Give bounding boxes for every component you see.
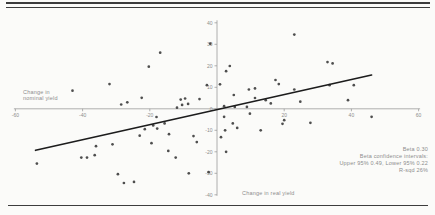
data-point [248, 88, 251, 91]
data-point [198, 98, 201, 101]
data-point [155, 116, 158, 119]
data-point [225, 150, 228, 153]
x-axis-title: Change in real yield [242, 190, 295, 196]
data-point [167, 150, 170, 153]
data-point [117, 173, 120, 176]
data-point [232, 94, 235, 97]
data-point [133, 181, 136, 184]
data-point [187, 172, 190, 175]
data-point [299, 100, 302, 103]
stats-rsqd: R-sqd 26% [339, 167, 428, 174]
data-point [207, 171, 210, 174]
data-point [159, 51, 162, 54]
data-point [86, 156, 89, 159]
data-point [352, 84, 355, 87]
data-point [120, 103, 123, 106]
data-point [143, 128, 146, 131]
stats-annotation: Beta 0.30 Beta confidence intervals: Upp… [339, 146, 428, 174]
data-point [331, 62, 334, 65]
x-tick-label: -60 [12, 112, 19, 118]
data-point [220, 136, 223, 139]
data-point [174, 156, 177, 159]
data-point [370, 115, 373, 118]
x-tick-label: -20 [146, 112, 153, 118]
stats-ci-heading: Beta confidence intervals: [339, 153, 428, 160]
scatter-chart: -60-40-20204060403020100-10-20-30-40 [0, 0, 435, 215]
y-tick-label: 40 [207, 20, 213, 26]
data-point [236, 127, 239, 130]
x-tick-label: 20 [281, 112, 287, 118]
data-point [254, 87, 257, 90]
data-point [187, 103, 190, 106]
data-point [293, 88, 296, 91]
data-point [206, 84, 209, 87]
data-point [228, 65, 231, 68]
stats-beta: Beta 0.30 [339, 146, 428, 153]
data-point [111, 143, 114, 146]
data-point [195, 141, 198, 144]
x-tick-label: 40 [349, 112, 355, 118]
y-tick-label: -10 [205, 127, 212, 133]
data-point [138, 134, 141, 137]
data-point [246, 106, 249, 109]
data-point [277, 83, 280, 86]
data-point [254, 97, 257, 100]
data-point [95, 145, 98, 148]
data-point [150, 142, 153, 145]
data-point [281, 122, 284, 125]
data-point [156, 127, 159, 130]
data-point [36, 162, 39, 165]
data-point [181, 104, 184, 107]
stats-ci-values: Upper 95% 0.49, Lower 95% 0.22 [339, 160, 428, 167]
data-point [184, 97, 187, 100]
data-point [347, 99, 350, 102]
y-tick-label: 20 [207, 63, 213, 69]
data-point [259, 129, 262, 132]
data-point [168, 133, 171, 136]
data-point [176, 106, 179, 109]
x-tick-label: 60 [416, 112, 422, 118]
y-tick-label: -20 [205, 149, 212, 155]
data-point [140, 96, 143, 99]
data-point [269, 102, 272, 105]
bottom-rule [8, 205, 428, 206]
data-point [126, 101, 129, 104]
data-point [93, 154, 96, 157]
x-tick-label: -40 [79, 112, 86, 118]
data-point [179, 98, 182, 101]
data-point [309, 121, 312, 124]
data-point [123, 182, 126, 185]
data-point [283, 119, 286, 122]
data-point [80, 156, 83, 159]
data-point [219, 83, 222, 86]
data-point [293, 33, 296, 36]
data-point [223, 115, 226, 118]
data-point [326, 61, 329, 64]
data-point [147, 65, 150, 68]
data-point [231, 122, 234, 125]
data-point [225, 70, 228, 73]
y-tick-label: -40 [205, 192, 212, 198]
data-point [108, 83, 111, 86]
data-point [209, 42, 212, 45]
data-point [224, 129, 227, 132]
data-point [249, 112, 252, 115]
data-point [192, 135, 195, 138]
figure-page: -60-40-20204060403020100-10-20-30-40 Cha… [0, 0, 435, 215]
data-point [274, 79, 277, 82]
y-axis-title: Change in nominal yield [23, 89, 69, 101]
data-point [71, 89, 74, 92]
